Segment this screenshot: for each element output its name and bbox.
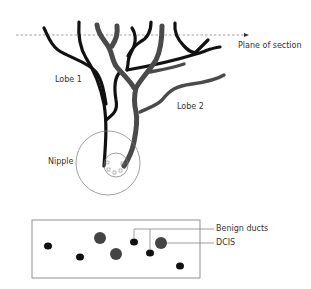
lobe-1-label: Lobe 1 bbox=[55, 75, 82, 84]
plane-of-section-label: Plane of section bbox=[238, 41, 302, 50]
dcis-duct-dot bbox=[110, 248, 122, 260]
lobe-2-label: Lobe 2 bbox=[177, 102, 204, 111]
nipple bbox=[76, 131, 140, 195]
section-view bbox=[32, 220, 214, 278]
benign-duct-dot bbox=[130, 239, 138, 246]
benign-duct-dot bbox=[176, 263, 184, 270]
benign-ducts-label: Benign ducts bbox=[216, 224, 268, 233]
nipple-label: Nipple bbox=[48, 157, 74, 166]
benign-duct-dot bbox=[44, 243, 52, 250]
benign-duct-dot bbox=[76, 254, 84, 261]
dcis-duct-dot bbox=[155, 237, 167, 249]
dcis-label: DCIS bbox=[216, 238, 235, 247]
dcis-duct-dot bbox=[94, 232, 106, 244]
benign-duct-dot bbox=[146, 250, 154, 257]
plane-of-section-arrow bbox=[16, 33, 249, 37]
